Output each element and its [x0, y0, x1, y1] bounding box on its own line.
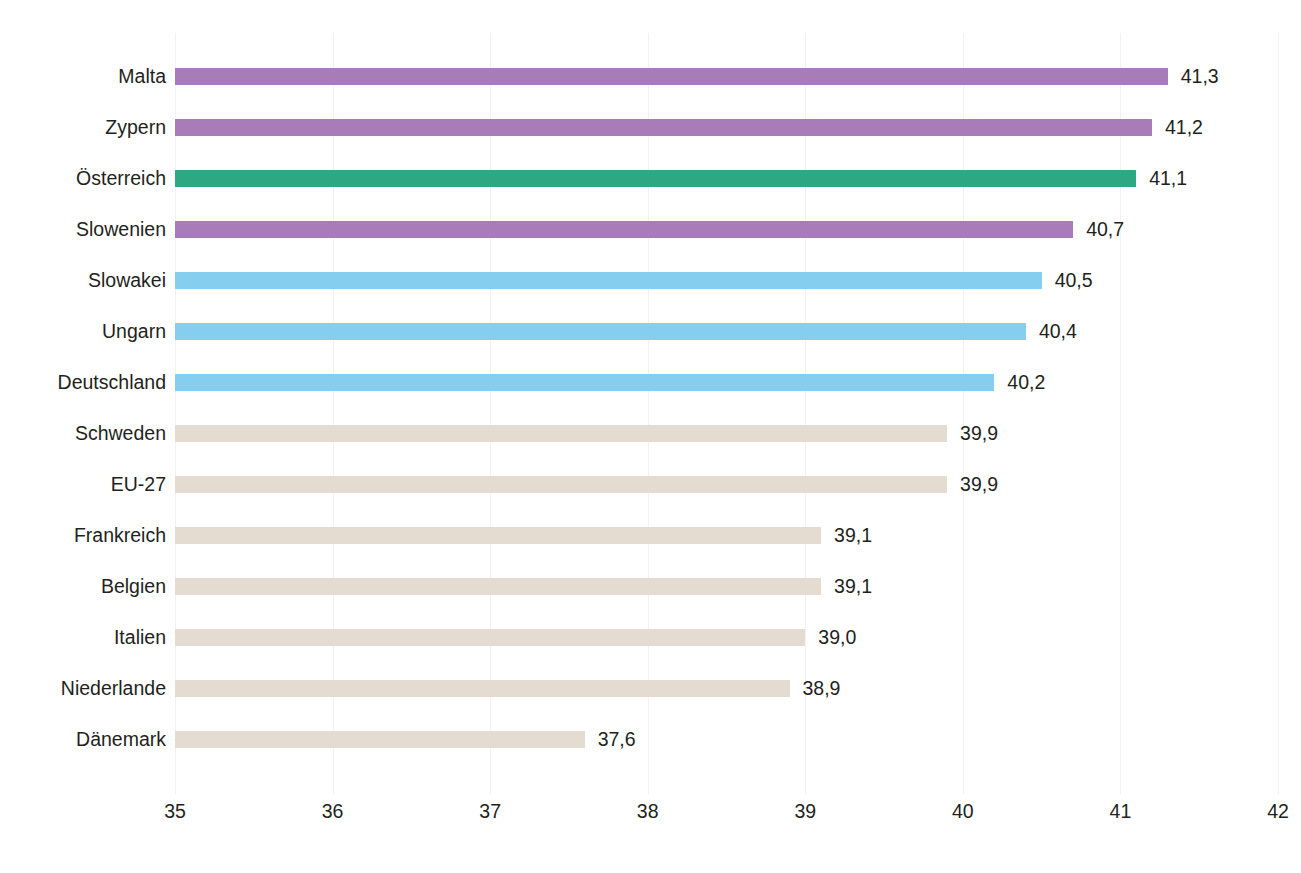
value-label: 39,9: [960, 408, 998, 459]
value-label: 40,7: [1086, 204, 1124, 255]
x-tick-label: 42: [1267, 800, 1289, 823]
value-label: 40,5: [1055, 255, 1093, 306]
bar: [175, 170, 1136, 187]
value-label: 41,3: [1181, 51, 1219, 102]
plot-area: Malta41,3Zypern41,2Österreich41,1Sloweni…: [175, 33, 1278, 795]
x-tick-label: 35: [164, 800, 186, 823]
figure-caption: [38, 860, 1278, 873]
category-label: Österreich: [76, 153, 166, 204]
category-label: Schweden: [75, 408, 166, 459]
bar-row: Dänemark37,6: [175, 714, 1278, 765]
bar-row: Italien39,0: [175, 612, 1278, 663]
bar: [175, 272, 1042, 289]
bar: [175, 476, 947, 493]
x-tick-label: 41: [1110, 800, 1132, 823]
bar-row: Österreich41,1: [175, 153, 1278, 204]
category-label: Slowakei: [88, 255, 166, 306]
bar: [175, 680, 790, 697]
category-label: Ungarn: [102, 306, 166, 357]
bar-row: Zypern41,2: [175, 102, 1278, 153]
bar-row: Deutschland40,2: [175, 357, 1278, 408]
bar-row: Malta41,3: [175, 51, 1278, 102]
value-label: 38,9: [803, 663, 841, 714]
bar-row: EU-2739,9: [175, 459, 1278, 510]
bar: [175, 578, 821, 595]
bar-row: Ungarn40,4: [175, 306, 1278, 357]
x-tick-label: 40: [952, 800, 974, 823]
value-label: 41,2: [1165, 102, 1203, 153]
value-label: 40,4: [1039, 306, 1077, 357]
value-label: 41,1: [1149, 153, 1187, 204]
value-label: 40,2: [1007, 357, 1045, 408]
bar-row: Slowenien40,7: [175, 204, 1278, 255]
bar-row: Niederlande38,9: [175, 663, 1278, 714]
category-label: Frankreich: [74, 510, 166, 561]
x-tick-label: 36: [322, 800, 344, 823]
bar-row: Schweden39,9: [175, 408, 1278, 459]
value-label: 37,6: [598, 714, 636, 765]
category-label: EU-27: [111, 459, 166, 510]
x-tick-label: 38: [637, 800, 659, 823]
bar: [175, 425, 947, 442]
bar-row: Frankreich39,1: [175, 510, 1278, 561]
value-label: 39,0: [818, 612, 856, 663]
bar: [175, 221, 1073, 238]
bar-row: Slowakei40,5: [175, 255, 1278, 306]
category-label: Deutschland: [58, 357, 166, 408]
bar: [175, 527, 821, 544]
category-label: Slowenien: [76, 204, 166, 255]
bar: [175, 119, 1152, 136]
bar-chart: Malta41,3Zypern41,2Österreich41,1Sloweni…: [0, 0, 1301, 873]
value-label: 39,1: [834, 561, 872, 612]
x-axis: 3536373839404142: [175, 800, 1278, 840]
bar: [175, 68, 1168, 85]
bar: [175, 731, 585, 748]
gridline: [1278, 33, 1279, 795]
value-label: 39,9: [960, 459, 998, 510]
category-label: Dänemark: [76, 714, 166, 765]
bar: [175, 629, 805, 646]
category-label: Zypern: [105, 102, 166, 153]
category-label: Malta: [118, 51, 166, 102]
x-tick-label: 37: [479, 800, 501, 823]
value-label: 39,1: [834, 510, 872, 561]
bar-row: Belgien39,1: [175, 561, 1278, 612]
category-label: Italien: [114, 612, 166, 663]
bar: [175, 374, 994, 391]
bar: [175, 323, 1026, 340]
category-label: Belgien: [101, 561, 166, 612]
x-tick-label: 39: [794, 800, 816, 823]
category-label: Niederlande: [61, 663, 166, 714]
